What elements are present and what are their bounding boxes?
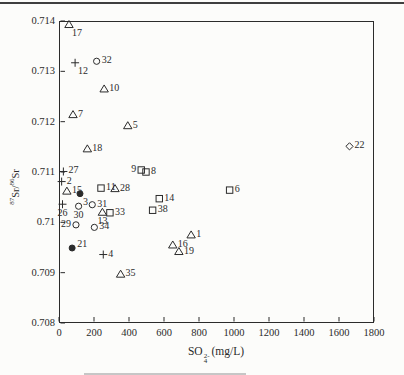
y-title-base-1: Sr/ [10, 186, 21, 198]
scatter-point-1 [187, 231, 195, 238]
x-tick-label-200: 200 [86, 327, 102, 338]
scatter-point-29 [73, 222, 79, 228]
x-tick-label-400: 400 [121, 327, 137, 338]
scatter-point-5 [124, 122, 132, 129]
x-title-sub: 4 [204, 359, 208, 364]
point-label-29: 29 [61, 219, 71, 229]
scatter-point-15 [63, 187, 71, 194]
x-axis-title: SO2-4(mg/L) [188, 344, 244, 363]
scatter-point-32 [94, 58, 100, 64]
scatter-point-4 [99, 251, 107, 259]
x-tick-label-1600: 1600 [329, 327, 350, 338]
scatter-point-22 [346, 143, 353, 150]
point-label-9: 9 [131, 164, 136, 174]
scatter-point-21 [69, 245, 75, 251]
x-tick-label-1000: 1000 [224, 327, 245, 338]
point-label-33: 33 [115, 207, 125, 217]
point-label-11: 11 [106, 182, 116, 192]
point-label-15: 15 [72, 185, 82, 195]
y-tick-label-0.709: 0.709 [31, 268, 55, 278]
point-label-27: 27 [68, 165, 78, 175]
x-title-base: SO [188, 345, 203, 357]
y-tick-label-0.71: 0.71 [37, 217, 55, 227]
y-tick-label-0.713: 0.713 [31, 66, 55, 76]
scatter-point-38 [149, 207, 155, 213]
scatter-point-18 [83, 145, 91, 152]
scatter-point-16 [169, 241, 177, 248]
y-tick-label-0.711: 0.711 [32, 167, 55, 177]
x-tick-label-0: 0 [56, 327, 61, 338]
y-axis-title: 87Sr/86Sr [6, 169, 22, 205]
point-label-12: 12 [78, 66, 88, 76]
point-label-5: 5 [133, 120, 138, 130]
scatter-point-13 [98, 208, 106, 215]
point-label-6: 6 [235, 184, 240, 194]
y-tick-label-0.708: 0.708 [31, 318, 55, 328]
scatter-point-14 [156, 195, 162, 201]
y-tick-label-0.714: 0.714 [31, 16, 55, 26]
scatter-point-10 [100, 85, 108, 92]
point-label-8: 8 [151, 166, 156, 176]
point-label-14: 14 [164, 193, 174, 203]
point-label-7: 7 [78, 109, 83, 119]
point-label-2: 2 [67, 176, 72, 186]
point-label-30: 30 [74, 210, 84, 220]
y-title-base-2: Sr [10, 169, 21, 178]
x-tick-label-1200: 1200 [259, 327, 280, 338]
x-tick-label-800: 800 [191, 327, 207, 338]
point-label-38: 38 [158, 204, 168, 214]
y-title-sup-87: 87 [8, 198, 16, 205]
scatter-point-35 [116, 270, 124, 277]
scatter-point-33 [107, 210, 113, 216]
scatter-point-31 [89, 202, 95, 208]
y-tick-label-0.712: 0.712 [31, 117, 55, 127]
point-label-3: 3 [83, 197, 88, 207]
plot-canvas [0, 0, 404, 375]
point-label-4: 4 [108, 249, 113, 259]
point-label-34: 34 [99, 221, 109, 231]
point-label-17: 17 [72, 28, 82, 38]
so4-sub-sup-stack: 2-4 [204, 354, 210, 364]
scatter-point-6 [226, 187, 232, 193]
figure: 87Sr/86Sr SO2-4(mg/L) 020040060080010001… [0, 0, 404, 375]
point-label-26: 26 [58, 208, 68, 218]
scatter-point-7 [69, 111, 77, 118]
point-label-21: 21 [77, 239, 87, 249]
scatter-point-8 [143, 169, 149, 175]
point-label-32: 32 [102, 55, 112, 65]
point-label-18: 18 [92, 143, 102, 153]
x-tick-label-600: 600 [156, 327, 172, 338]
point-label-1: 1 [196, 229, 201, 239]
x-tick-label-1800: 1800 [364, 327, 385, 338]
point-label-19: 19 [184, 246, 194, 256]
scatter-point-9 [138, 167, 144, 173]
point-label-28: 28 [120, 183, 130, 193]
y-title-sup-86: 86 [8, 179, 16, 186]
point-label-35: 35 [126, 268, 136, 278]
point-label-22: 22 [355, 140, 365, 150]
point-label-10: 10 [109, 83, 119, 93]
scatter-point-11 [98, 185, 104, 191]
x-tick-label-1400: 1400 [294, 327, 315, 338]
x-title-suffix: (mg/L) [211, 345, 244, 357]
point-label-31: 31 [97, 199, 107, 209]
scatter-point-2 [58, 178, 66, 186]
